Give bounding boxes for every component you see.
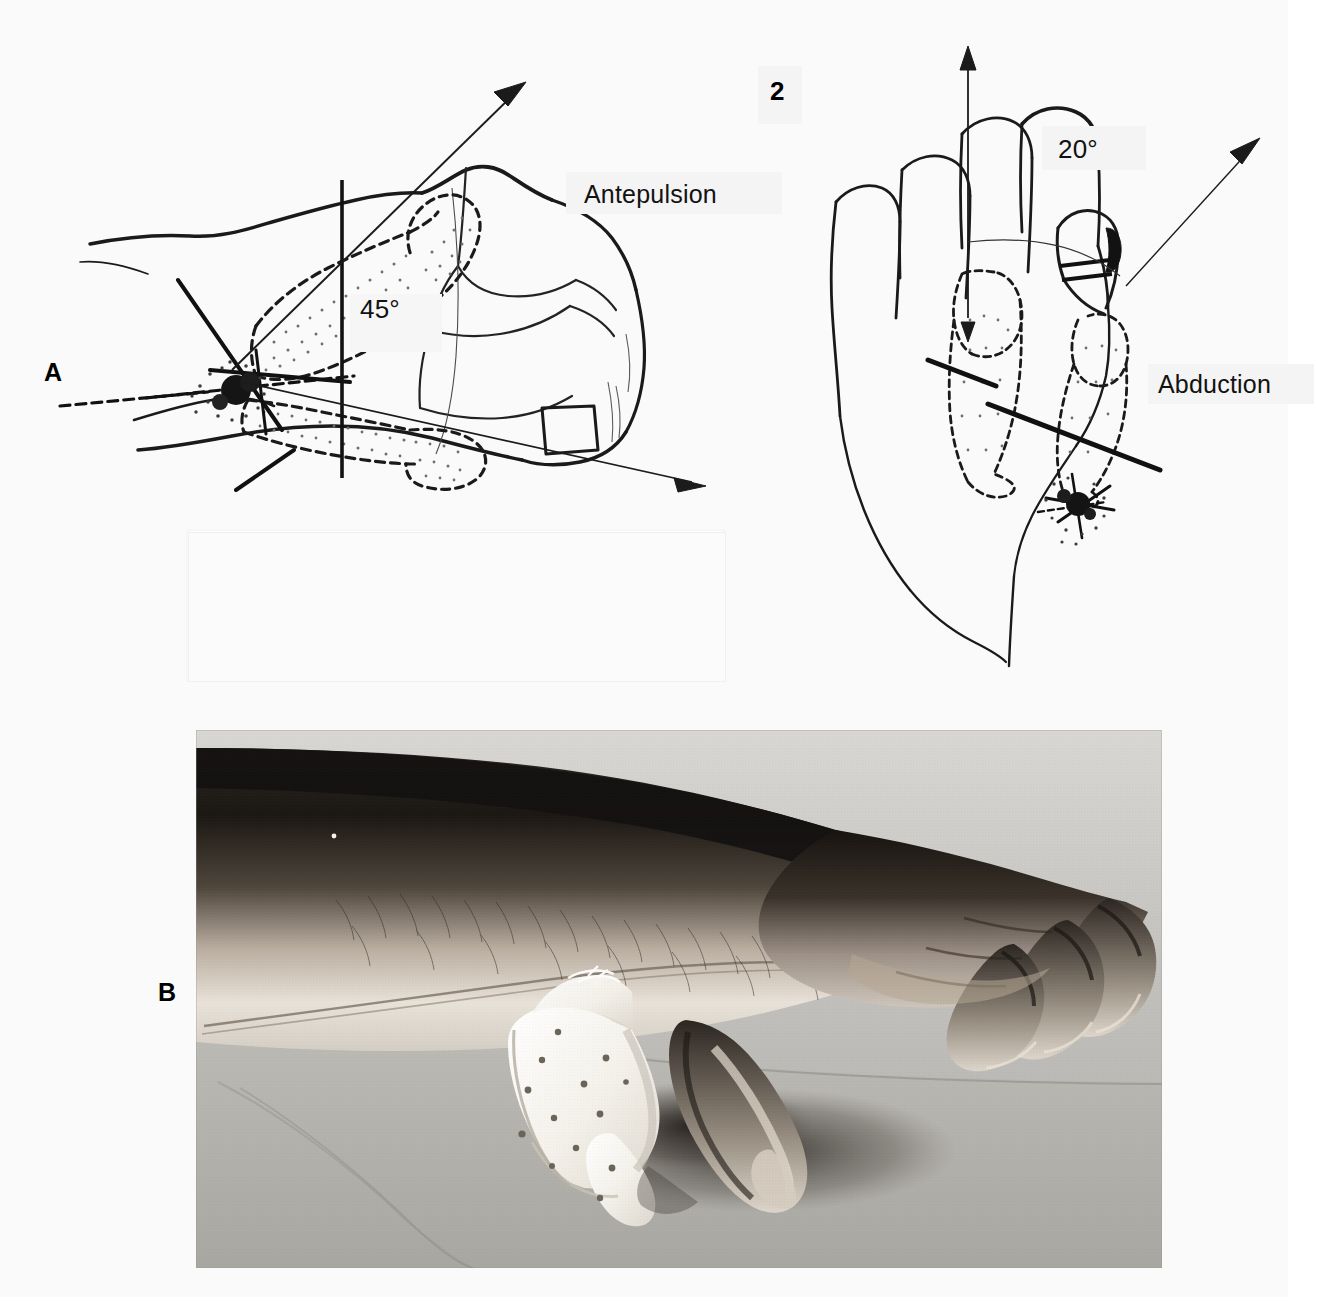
antepulsion-arrow-lower xyxy=(242,382,706,492)
angle-label-45: 45° xyxy=(360,294,400,325)
abduction-arrow-vertical xyxy=(960,46,976,342)
antepulsion-label: Antepulsion xyxy=(584,180,717,209)
abduction-label: Abduction xyxy=(1158,370,1271,399)
angle-label-20: 20° xyxy=(1058,134,1098,165)
k-wire-fixation-star xyxy=(60,280,354,490)
index-finger-block xyxy=(542,406,598,454)
thumb-phalanx-head-neutral xyxy=(406,429,486,489)
fingernail-hatch xyxy=(608,334,630,442)
k-wire-transverse-lower xyxy=(988,404,1160,470)
thumb-phalanx-head-antepulsed xyxy=(408,195,480,300)
photograph-content xyxy=(196,730,1162,1268)
k-wire-fixation-burst xyxy=(1038,474,1114,538)
photo-grain-overlay xyxy=(196,730,1162,1268)
abduction-arrow-oblique xyxy=(1126,138,1260,286)
left-drawing-lower-retouch xyxy=(188,532,726,682)
page-edge xyxy=(1288,0,1328,1297)
panel-b-photograph xyxy=(196,730,1162,1268)
thumb-metacarpal-dashed xyxy=(1057,314,1128,509)
panel-letter-b: B xyxy=(158,978,176,1007)
figure-page: 2 A xyxy=(0,0,1328,1297)
k-wire-transverse-upper xyxy=(928,360,996,386)
